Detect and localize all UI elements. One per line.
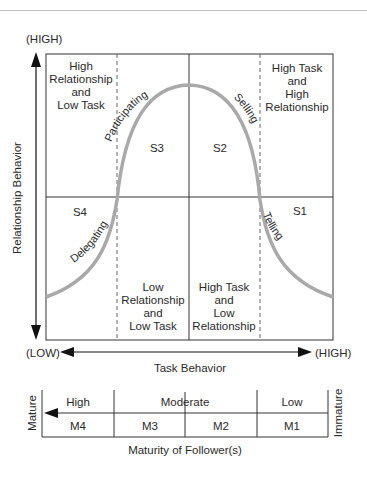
y-axis-label: Relationship Behavior <box>11 142 23 254</box>
mature-label: Mature <box>26 395 38 431</box>
quadrant-top-right-text: High Task and High Relationship <box>265 62 328 113</box>
svg-text:and: and <box>287 75 306 87</box>
maturity-axis-label: Maturity of Follower(s) <box>128 444 242 456</box>
svg-text:Relationship: Relationship <box>192 320 255 332</box>
participating-label: Participating <box>102 88 150 143</box>
maturity-level-moderate: Moderate <box>161 396 210 408</box>
svg-text:Low: Low <box>213 307 235 319</box>
style-s4: S4 <box>73 206 88 218</box>
svg-text:High Task: High Task <box>272 62 323 74</box>
maturity-stage-m3: M3 <box>142 420 158 432</box>
quadrant-bottom-mid-left-text: Low Relationship and Low Task <box>121 281 184 332</box>
maturity-level-high: High <box>66 396 90 408</box>
style-s1: S1 <box>293 205 307 217</box>
delegating-label: Delegating <box>68 218 109 264</box>
svg-text:Relationship: Relationship <box>49 73 112 85</box>
svg-text:and: and <box>143 307 162 319</box>
y-axis-arrow <box>31 52 41 340</box>
maturity-arrow-icon <box>44 408 58 418</box>
immature-label: Immature <box>332 389 344 438</box>
x-axis-high-label: (HIGH) <box>315 347 352 359</box>
maturity-stage-m4: M4 <box>70 420 87 432</box>
x-axis-low-label: (LOW) <box>26 347 60 359</box>
x-axis-arrow <box>60 347 312 357</box>
svg-text:Relationship: Relationship <box>121 294 184 306</box>
style-s2: S2 <box>213 142 227 154</box>
quadrant-bottom-mid-right-text: High Task and Low Relationship <box>192 281 255 332</box>
style-s3: S3 <box>150 142 164 154</box>
svg-text:High: High <box>69 60 93 72</box>
svg-text:Low: Low <box>142 281 164 293</box>
svg-text:High Task: High Task <box>199 281 250 293</box>
maturity-stage-m2: M2 <box>213 420 229 432</box>
svg-text:Low Task: Low Task <box>129 320 177 332</box>
situational-leadership-diagram: (HIGH) Relationship Behavior Participati… <box>0 0 367 484</box>
svg-text:and: and <box>214 294 233 306</box>
maturity-level-low: Low <box>281 396 303 408</box>
svg-text:Relationship: Relationship <box>265 101 328 113</box>
y-axis-high-label: (HIGH) <box>26 33 63 45</box>
svg-text:High: High <box>285 88 309 100</box>
x-axis-label: Task Behavior <box>154 362 226 374</box>
svg-text:and: and <box>71 86 90 98</box>
maturity-stage-m1: M1 <box>284 420 300 432</box>
selling-label: Selling <box>232 91 262 125</box>
svg-text:Low Task: Low Task <box>57 99 105 111</box>
quadrant-top-left-text: High Relationship and Low Task <box>49 60 112 111</box>
